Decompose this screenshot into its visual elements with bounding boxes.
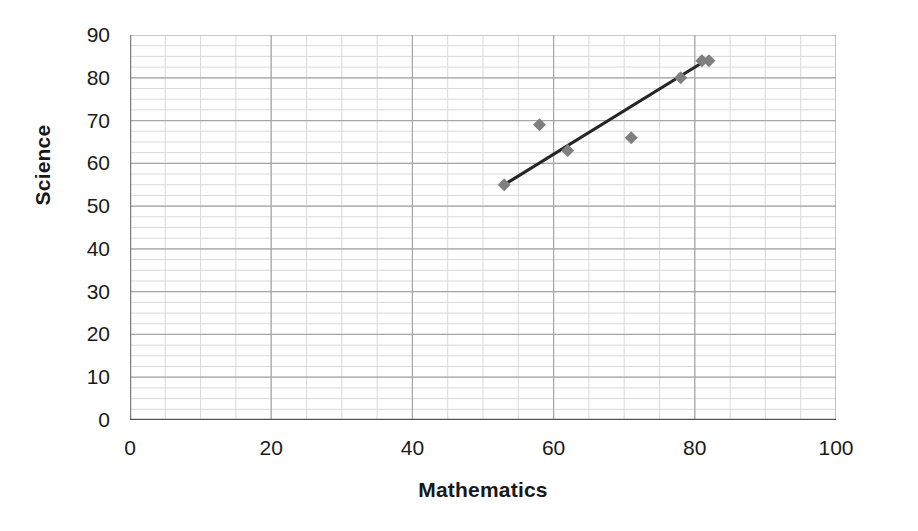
y-tick-label-10: 10 bbox=[64, 366, 110, 387]
plot-area bbox=[130, 35, 836, 420]
data-point-2 bbox=[561, 144, 574, 157]
y-tick-label-0: 0 bbox=[64, 409, 110, 430]
y-tick-label-30: 30 bbox=[64, 281, 110, 302]
y-tick-label-90: 90 bbox=[64, 24, 110, 45]
x-tick-label-40: 40 bbox=[382, 437, 442, 458]
y-tick-label-20: 20 bbox=[64, 323, 110, 344]
scatter-chart: Science Mathematics 0102030405060708090 … bbox=[0, 0, 918, 531]
y-tick-label-70: 70 bbox=[64, 110, 110, 131]
y-tick-label-50: 50 bbox=[64, 195, 110, 216]
y-tick-label-80: 80 bbox=[64, 67, 110, 88]
x-tick-label-60: 60 bbox=[524, 437, 584, 458]
plot-canvas bbox=[130, 35, 836, 420]
x-tick-label-80: 80 bbox=[665, 437, 725, 458]
y-tick-label-60: 60 bbox=[64, 152, 110, 173]
x-tick-label-100: 100 bbox=[806, 437, 866, 458]
x-axis-title: Mathematics bbox=[130, 478, 836, 502]
minor-gridlines bbox=[130, 35, 836, 420]
y-tick-label-40: 40 bbox=[64, 238, 110, 259]
y-axis-title: Science bbox=[28, 90, 58, 240]
x-tick-label-20: 20 bbox=[241, 437, 301, 458]
x-tick-label-0: 0 bbox=[100, 437, 160, 458]
